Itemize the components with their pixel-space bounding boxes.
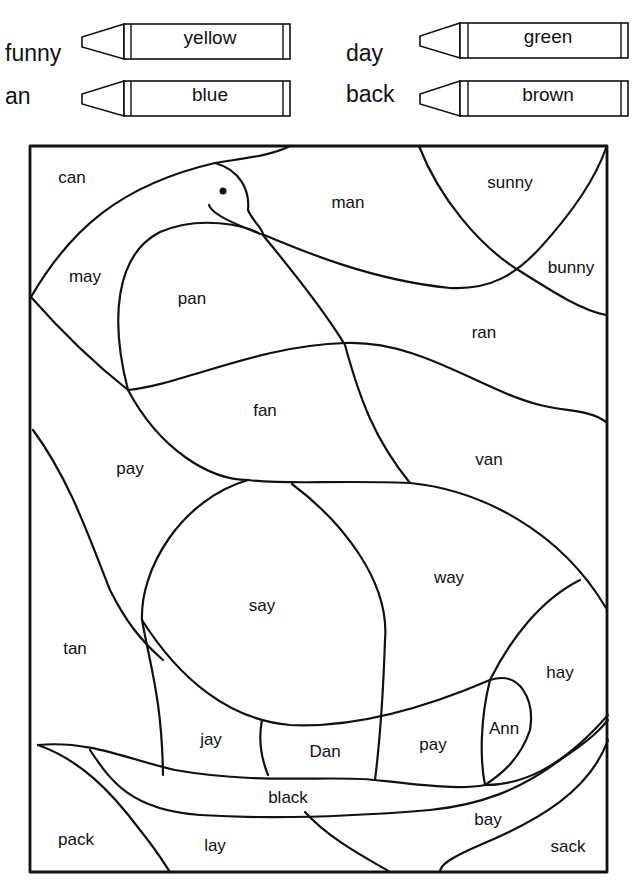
region-pay-left[interactable]: pay bbox=[116, 459, 143, 479]
region-way[interactable]: way bbox=[434, 568, 464, 588]
region-bay[interactable]: bay bbox=[474, 810, 501, 830]
region-hay[interactable]: hay bbox=[546, 663, 573, 683]
region-sack[interactable]: sack bbox=[551, 837, 586, 857]
region-lay[interactable]: lay bbox=[204, 836, 226, 856]
region-black[interactable]: black bbox=[268, 788, 308, 808]
region-tan[interactable]: tan bbox=[63, 639, 87, 659]
region-ran[interactable]: ran bbox=[472, 323, 497, 343]
region-ann[interactable]: Ann bbox=[489, 719, 519, 739]
region-fan[interactable]: fan bbox=[253, 401, 277, 421]
region-van[interactable]: van bbox=[475, 450, 502, 470]
region-bunny[interactable]: bunny bbox=[548, 258, 594, 278]
region-may[interactable]: may bbox=[69, 267, 101, 287]
region-say[interactable]: say bbox=[249, 596, 275, 616]
region-jay[interactable]: jay bbox=[200, 730, 222, 750]
region-pay-right[interactable]: pay bbox=[419, 735, 446, 755]
region-pack[interactable]: pack bbox=[58, 830, 94, 850]
picture-frame bbox=[30, 146, 607, 872]
region-sunny[interactable]: sunny bbox=[487, 173, 532, 193]
region-pan[interactable]: pan bbox=[178, 289, 206, 309]
region-man[interactable]: man bbox=[331, 193, 364, 213]
region-can[interactable]: can bbox=[58, 168, 85, 188]
region-dan[interactable]: Dan bbox=[309, 742, 340, 762]
